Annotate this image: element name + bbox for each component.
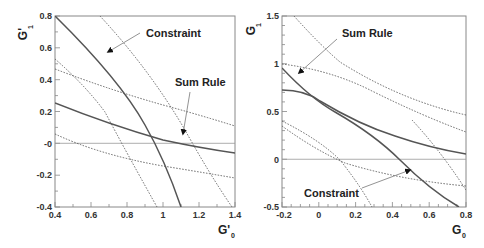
right-ytick-label: 1.5 bbox=[266, 11, 279, 21]
right-plot-frame bbox=[282, 16, 466, 207]
right-plot-curves bbox=[282, 16, 466, 207]
left-xtick-label: 0.4 bbox=[49, 210, 62, 220]
left-x-ticks bbox=[55, 202, 235, 207]
svg-text:1: 1 bbox=[27, 25, 34, 29]
right-y-axis-label: G 1 bbox=[244, 23, 262, 35]
left-sumrule-lower bbox=[55, 134, 235, 178]
left-xtick-label: 0.6 bbox=[85, 210, 98, 220]
svg-text:0: 0 bbox=[231, 232, 235, 239]
left-x-axis-label: G' 0 bbox=[218, 223, 235, 239]
chart-canvas: 0.8 0.6 0.4 0.2 -0 -0.2 -0.4 0.4 0.6 0.8… bbox=[0, 0, 484, 248]
right-constraint-lower bbox=[282, 126, 466, 186]
right-y-ticks bbox=[282, 16, 287, 207]
left-sumrule-central bbox=[55, 103, 235, 153]
left-xtick-label: 0.8 bbox=[121, 210, 134, 220]
left-ytick-label: 0.2 bbox=[39, 107, 52, 117]
left-y-ticks bbox=[55, 16, 60, 207]
left-constraint-arrow bbox=[108, 33, 140, 52]
left-plot: 0.8 0.6 0.4 0.2 -0 -0.2 -0.4 0.4 0.6 0.8… bbox=[16, 11, 241, 239]
svg-text:G: G bbox=[452, 223, 461, 237]
right-x-axis-label: G 0 bbox=[452, 223, 466, 239]
left-xtick-label: 1.2 bbox=[193, 210, 206, 220]
left-xtick-label: 1 bbox=[160, 210, 165, 220]
left-ytick-label: 0.6 bbox=[39, 43, 52, 53]
left-constraint-central bbox=[55, 16, 181, 207]
svg-text:G': G' bbox=[218, 223, 230, 237]
right-xtick-label: 0 bbox=[316, 210, 321, 220]
right-ytick-label: 1 bbox=[274, 59, 279, 69]
right-xtick-label: 0.4 bbox=[386, 210, 399, 220]
right-plot: 1.5 1 0.5 0 -0.5 -0.2 0 0.2 0.4 0.6 0.8 … bbox=[244, 11, 472, 239]
right-ytick-label: 0.5 bbox=[266, 107, 279, 117]
right-sumrule-arrow bbox=[299, 39, 337, 73]
left-ytick-label: 0.8 bbox=[39, 11, 52, 21]
left-annotation-constraint: Constraint bbox=[146, 27, 201, 39]
left-y-axis-label: G' 1 bbox=[16, 25, 34, 40]
right-sumrule-upper bbox=[282, 64, 466, 132]
left-ytick-label: 0.4 bbox=[39, 75, 52, 85]
right-xtick-label: -0.2 bbox=[276, 210, 292, 220]
right-xtick-label: 0.2 bbox=[349, 210, 362, 220]
right-ytick-label: 0 bbox=[274, 155, 279, 165]
right-xtick-label: 0.6 bbox=[423, 210, 436, 220]
left-ytick-label: -0.2 bbox=[36, 170, 52, 180]
left-xtick-label: 1.4 bbox=[229, 210, 242, 220]
right-x-ticks bbox=[282, 202, 466, 207]
svg-text:0: 0 bbox=[462, 232, 466, 239]
right-annotation-constraint: Constraint bbox=[304, 187, 359, 199]
left-annotation-sumrule: Sum Rule bbox=[175, 76, 226, 88]
left-plot-curves bbox=[55, 16, 235, 207]
svg-text:1: 1 bbox=[255, 23, 262, 27]
right-constraint-arrow bbox=[362, 170, 410, 188]
left-ytick-label: -0 bbox=[44, 139, 52, 149]
right-xtick-label: 0.8 bbox=[460, 210, 473, 220]
right-annotation-sumrule: Sum Rule bbox=[342, 27, 393, 39]
left-sumrule-arrow bbox=[183, 92, 190, 134]
